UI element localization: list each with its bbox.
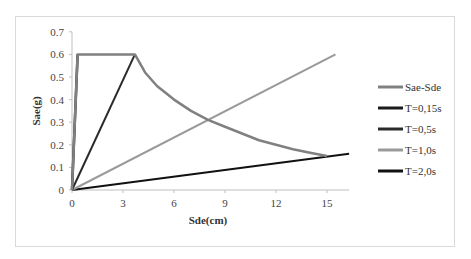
series-line-t-1-0s (72, 54, 336, 190)
x-tick-label: 0 (69, 197, 75, 209)
legend-entry: T=0,5s (405, 123, 436, 135)
chart-plot: 00.10.20.30.40.50.60.703691215Sde(cm)Sae… (0, 0, 471, 259)
y-tick-label: 0.1 (50, 161, 64, 173)
y-tick-label: 0.3 (50, 116, 64, 128)
x-tick-label: 12 (271, 197, 282, 209)
x-tick-label: 6 (171, 197, 177, 209)
y-tick-label: 0.7 (50, 26, 64, 38)
series-line-t-2-0s (72, 154, 349, 190)
y-tick-label: 0.4 (50, 94, 64, 106)
x-axis-label: Sde(cm) (189, 214, 228, 227)
legend-entry: T=1,0s (405, 144, 436, 156)
y-tick-label: 0 (59, 184, 65, 196)
y-tick-label: 0.2 (50, 139, 64, 151)
y-axis-label: Sae(g) (30, 96, 43, 126)
legend-entry: T=0,15s (405, 102, 441, 114)
x-tick-label: 15 (322, 197, 334, 209)
legend-entry: T=2,0s (405, 165, 436, 177)
x-tick-label: 9 (222, 197, 228, 209)
x-tick-label: 3 (120, 197, 126, 209)
y-tick-label: 0.5 (50, 71, 64, 83)
series-line-t-0-5s (72, 54, 135, 190)
y-tick-label: 0.6 (50, 48, 64, 60)
legend-entry: Sae-Sde (405, 81, 441, 93)
